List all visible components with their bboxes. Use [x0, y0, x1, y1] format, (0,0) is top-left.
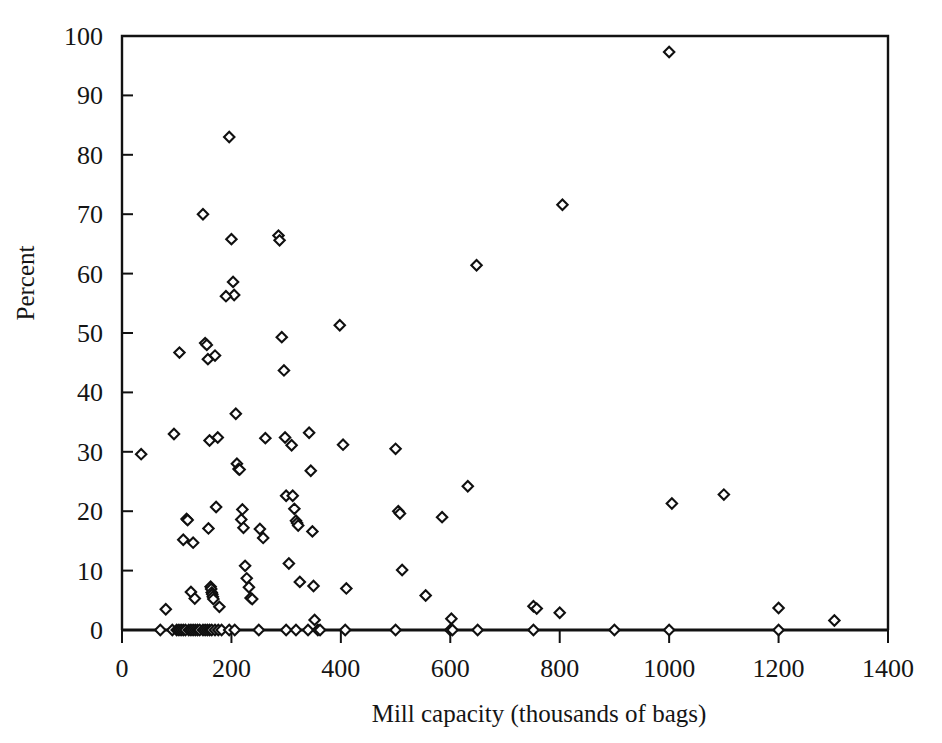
data-point-marker	[291, 625, 301, 635]
data-point-marker	[719, 489, 729, 499]
data-point-marker	[472, 625, 482, 635]
data-point-marker	[211, 502, 221, 512]
data-point-marker	[174, 347, 184, 357]
data-point-marker	[260, 433, 270, 443]
data-point-marker	[155, 625, 165, 635]
x-tick-label: 1400	[862, 654, 914, 683]
data-point-marker	[528, 625, 538, 635]
data-point-marker	[664, 47, 674, 57]
data-point-marker	[203, 523, 213, 533]
data-point-marker	[306, 466, 316, 476]
y-tick-label: 0	[90, 616, 103, 645]
x-tick-label: 1000	[643, 654, 695, 683]
data-point-marker	[557, 199, 567, 209]
y-tick-label: 50	[77, 319, 103, 348]
data-point-marker	[773, 625, 783, 635]
data-point-marker	[244, 582, 254, 592]
data-point-group	[136, 47, 840, 635]
data-point-marker	[335, 320, 345, 330]
y-tick-label: 20	[77, 497, 103, 526]
data-point-marker	[286, 440, 296, 450]
plot-frame	[122, 36, 888, 630]
y-tick-label: 10	[77, 557, 103, 586]
data-point-marker	[284, 558, 294, 568]
data-point-marker	[277, 332, 287, 342]
data-point-marker	[231, 409, 241, 419]
data-point-marker	[397, 565, 407, 575]
data-point-marker	[280, 432, 290, 442]
data-point-marker	[226, 234, 236, 244]
y-axis-title: Percent	[12, 245, 39, 320]
x-tick-label: 200	[212, 654, 251, 683]
data-point-marker	[161, 604, 171, 614]
data-point-marker	[555, 608, 565, 618]
y-tick-label: 40	[77, 378, 103, 407]
data-point-marker	[338, 439, 348, 449]
y-tick-label: 60	[77, 260, 103, 289]
y-tick-label: 100	[64, 22, 103, 51]
data-point-marker	[242, 573, 252, 583]
x-tick-label: 800	[540, 654, 579, 683]
scatter-plot-figure: 0102030405060708090100020040060080010001…	[0, 0, 942, 743]
y-tick-label: 90	[77, 81, 103, 110]
data-point-marker	[295, 577, 305, 587]
data-point-marker	[309, 615, 319, 625]
x-tick-label: 1200	[753, 654, 805, 683]
data-point-marker	[254, 625, 264, 635]
data-point-marker	[237, 504, 247, 514]
data-point-marker	[178, 535, 188, 545]
data-point-marker	[198, 209, 208, 219]
scatter-plot-canvas: 0102030405060708090100020040060080010001…	[0, 0, 942, 743]
data-point-marker	[304, 428, 314, 438]
data-point-marker	[136, 449, 146, 459]
data-point-marker	[437, 512, 447, 522]
y-tick-label: 70	[77, 200, 103, 229]
data-point-marker	[228, 277, 238, 287]
y-tick-label: 30	[77, 438, 103, 467]
data-point-marker	[240, 561, 250, 571]
data-point-marker	[390, 625, 400, 635]
data-point-marker	[279, 365, 289, 375]
x-tick-label: 600	[431, 654, 470, 683]
data-point-marker	[308, 581, 318, 591]
x-tick-label: 400	[321, 654, 360, 683]
data-point-marker	[463, 481, 473, 491]
data-point-marker	[307, 526, 317, 536]
data-point-marker	[609, 625, 619, 635]
data-point-marker	[664, 625, 674, 635]
figure-caption	[0, 722, 942, 736]
data-point-marker	[667, 498, 677, 508]
data-point-marker	[289, 504, 299, 514]
data-point-marker	[829, 615, 839, 625]
x-tick-label: 0	[116, 654, 129, 683]
data-point-marker	[420, 590, 430, 600]
data-point-marker	[169, 429, 179, 439]
data-point-marker	[773, 603, 783, 613]
data-point-marker	[341, 583, 351, 593]
data-point-marker	[188, 537, 198, 547]
data-point-marker	[221, 291, 231, 301]
data-point-marker	[446, 614, 456, 624]
y-tick-label: 80	[77, 141, 103, 170]
data-point-marker	[471, 260, 481, 270]
data-point-marker	[224, 132, 234, 142]
data-point-marker	[390, 444, 400, 454]
